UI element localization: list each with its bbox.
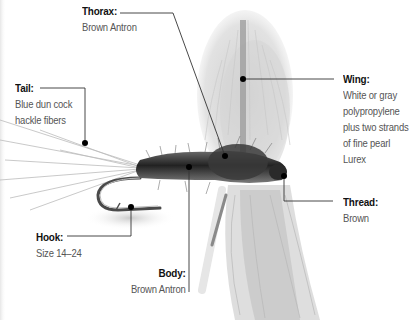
lower-wing	[202, 185, 320, 320]
tail-fibers	[0, 120, 140, 210]
thorax	[208, 144, 268, 180]
callout-thorax: Thorax: Brown Antron	[82, 3, 137, 35]
callout-body: Body: Brown Antron	[131, 265, 186, 297]
callout-text: White or gray	[343, 87, 409, 103]
thorax-dot	[222, 153, 228, 159]
fly-anatomy-diagram: Thorax: Brown Antron Tail: Blue dun cock…	[0, 0, 414, 320]
callout-text: of fine pearl	[343, 135, 409, 151]
callout-title: Wing:	[343, 71, 409, 87]
callout-title: Thread:	[343, 194, 378, 210]
wing-dot	[240, 76, 246, 82]
callout-tail: Tail: Blue dun cock hackle fibers	[15, 80, 72, 128]
callout-text: Lurex	[343, 151, 409, 167]
callout-title: Hook:	[36, 229, 82, 245]
callout-text: Brown	[343, 210, 378, 226]
thread-dot	[281, 173, 287, 179]
callout-text: plus two strands	[343, 119, 409, 135]
callout-title: Thorax:	[82, 3, 137, 19]
body-dot	[186, 164, 192, 170]
callout-wing: Wing: White or gray polypropylene plus t…	[343, 71, 409, 167]
callout-thread: Thread: Brown	[343, 194, 378, 226]
hook-dot	[128, 204, 134, 210]
callout-text: Brown Antron	[131, 281, 186, 297]
lurex-strand	[240, 20, 246, 160]
callout-hook: Hook: Size 14–24	[36, 229, 82, 261]
callout-title: Tail:	[15, 80, 72, 96]
callout-text: hackle fibers	[15, 112, 72, 128]
callout-text: polypropylene	[343, 103, 409, 119]
callout-text: Blue dun cock	[15, 96, 72, 112]
callout-title: Body:	[131, 265, 186, 281]
tail-dot	[82, 140, 88, 146]
callout-text: Size 14–24	[36, 245, 82, 261]
callout-text: Brown Antron	[82, 19, 137, 35]
